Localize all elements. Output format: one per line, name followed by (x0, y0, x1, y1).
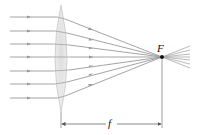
focal-point-label: F (157, 43, 164, 54)
incident-ray-arrows (27, 16, 31, 100)
refracted-rays (65, 19, 162, 96)
incident-rays (10, 17, 57, 98)
converging-lens-diagram (0, 0, 204, 135)
diverging-rays (162, 46, 190, 68)
focal-point-marker (160, 55, 164, 59)
focal-length-label: f (108, 118, 111, 129)
